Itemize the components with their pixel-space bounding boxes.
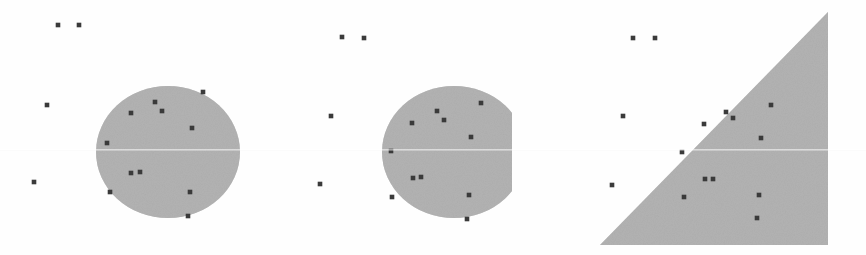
circle-shape-texture (96, 86, 240, 218)
data-point (186, 214, 191, 219)
data-point-outlier (631, 36, 636, 41)
data-point-outlier (362, 36, 367, 41)
data-point (389, 149, 394, 154)
data-point (702, 122, 707, 127)
data-point-outlier (318, 182, 323, 187)
clipped-circle-shape-texture (382, 86, 526, 218)
data-point-outlier (653, 36, 658, 41)
panel-circle-canvas (0, 0, 289, 255)
data-point (419, 175, 424, 180)
data-point-outlier (329, 114, 334, 119)
data-point (469, 135, 474, 140)
clipped-circle-shape-group (382, 86, 526, 218)
data-point (467, 193, 472, 198)
data-point (435, 109, 440, 114)
panel-triangle-canvas (578, 0, 866, 255)
circle-shape-group (96, 86, 240, 218)
data-point (442, 118, 447, 123)
figure-container (0, 0, 866, 255)
panel-clipped-circle-canvas (289, 0, 578, 255)
data-point (759, 136, 764, 141)
panel-clipped-circle (289, 0, 578, 255)
data-point (682, 195, 687, 200)
data-point (201, 90, 206, 95)
clipped-circle-markers-outside (318, 35, 367, 187)
data-point (711, 177, 716, 182)
data-point (724, 110, 729, 115)
data-point (160, 109, 165, 114)
data-point (390, 195, 395, 200)
circle-markers-outside (32, 23, 82, 185)
data-point (411, 176, 416, 181)
triangle-shape-group (600, 12, 828, 245)
data-point (138, 170, 143, 175)
data-point-outlier (621, 114, 626, 119)
data-point (129, 171, 134, 176)
data-point-outlier (32, 180, 37, 185)
data-point (755, 216, 760, 221)
data-point (105, 141, 110, 146)
data-point (703, 177, 708, 182)
data-point (769, 103, 774, 108)
data-point-outlier (610, 183, 615, 188)
triangle-shape-texture (600, 12, 828, 245)
panel-triangle (578, 0, 866, 255)
data-point (465, 217, 470, 222)
data-point-outlier (77, 23, 82, 28)
data-point (479, 101, 484, 106)
data-point (188, 190, 193, 195)
data-point-outlier (340, 35, 345, 40)
data-point (153, 100, 158, 105)
data-point (680, 150, 685, 155)
panel-circle (0, 0, 289, 255)
triangle-markers-outside (610, 36, 658, 188)
data-point (108, 190, 113, 195)
data-point-outlier (56, 23, 61, 28)
data-point (757, 193, 762, 198)
data-point (129, 111, 134, 116)
data-point (410, 121, 415, 126)
data-point (190, 126, 195, 131)
data-point-outlier (45, 103, 50, 108)
data-point (731, 116, 736, 121)
